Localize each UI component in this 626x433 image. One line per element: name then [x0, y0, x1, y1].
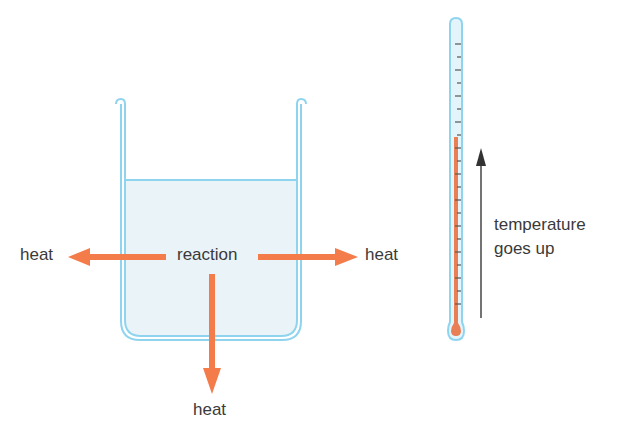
- reaction-label: reaction: [177, 245, 237, 265]
- temperature-caption: temperature goes up: [494, 213, 586, 261]
- diagram-canvas: heat reaction heat heat temperature goes…: [0, 0, 626, 433]
- heat-label-right: heat: [365, 245, 398, 265]
- temperature-caption-line1: temperature: [494, 213, 586, 237]
- temperature-up-arrow: [476, 148, 486, 318]
- thermometer: [448, 18, 464, 340]
- heat-label-bottom: heat: [193, 400, 226, 420]
- heat-label-left: heat: [20, 245, 53, 265]
- temperature-caption-line2: goes up: [494, 237, 586, 261]
